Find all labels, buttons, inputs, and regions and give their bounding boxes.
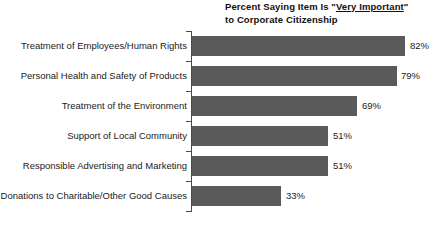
category-label: Personal Health and Safety of Products	[21, 66, 187, 86]
category-label: Treatment of the Environment	[62, 96, 187, 116]
chart-title-line-2: to Corporate Citizenship	[225, 14, 439, 27]
bar-row: Treatment of Employees/Human Rights 82%	[0, 36, 439, 56]
category-label: Responsible Advertising and Marketing	[23, 156, 187, 176]
bar	[192, 126, 328, 146]
bar-value-label: 82%	[410, 36, 429, 56]
axis-tick-1	[186, 61, 191, 62]
category-label: Donations to Charitable/Other Good Cause…	[1, 186, 187, 206]
bar-value-label: 79%	[401, 66, 420, 86]
axis-tick-5	[186, 181, 191, 182]
axis-tick-0	[186, 31, 191, 32]
bar-row: Support of Local Community 51%	[0, 126, 439, 146]
axis-tick-4	[186, 151, 191, 152]
chart-title-part-post: "	[404, 1, 409, 12]
chart-title-part-pre: Percent Saying Item Is "	[225, 1, 336, 12]
bar	[192, 186, 281, 206]
axis-tick-3	[186, 121, 191, 122]
bar	[192, 66, 397, 86]
bar-value-label: 51%	[333, 126, 352, 146]
bar-row: Donations to Charitable/Other Good Cause…	[0, 186, 439, 206]
bar-row: Responsible Advertising and Marketing 51…	[0, 156, 439, 176]
bar	[192, 36, 405, 56]
category-label: Support of Local Community	[67, 126, 187, 146]
axis-tick-6	[186, 211, 191, 212]
bar	[192, 156, 328, 176]
chart-title: Percent Saying Item Is "Very Important" …	[225, 1, 439, 26]
chart-title-emphasis: Very Important	[336, 1, 404, 12]
category-axis	[191, 31, 192, 212]
category-label: Treatment of Employees/Human Rights	[21, 36, 187, 56]
bar	[192, 96, 357, 116]
bar-value-label: 51%	[333, 156, 352, 176]
bar-value-label: 33%	[286, 186, 305, 206]
bar-value-label: 69%	[362, 96, 381, 116]
bar-row: Personal Health and Safety of Products 7…	[0, 66, 439, 86]
chart-title-line-1: Percent Saying Item Is "Very Important"	[225, 1, 439, 14]
bar-row: Treatment of the Environment 69%	[0, 96, 439, 116]
bar-chart: Percent Saying Item Is "Very Important" …	[0, 0, 439, 226]
axis-tick-2	[186, 91, 191, 92]
